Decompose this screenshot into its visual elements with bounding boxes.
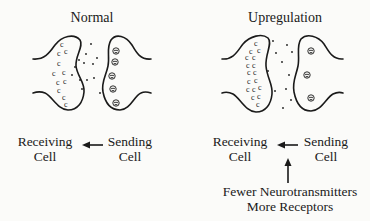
- label-line: Cell: [10, 149, 80, 164]
- label-line: Receiving: [10, 134, 80, 149]
- normal-neurotransmitter-dots: [71, 43, 101, 94]
- label-line: Cell: [205, 149, 275, 164]
- svg-text:c: c: [256, 100, 260, 109]
- upregulation-annotation: Fewer Neurotransmitters More Receptors: [210, 184, 370, 214]
- annotation-line: More Receptors: [210, 199, 370, 214]
- svg-text:c: c: [64, 100, 68, 109]
- upregulation-receptors: c cc cc cc cc cc ccc cc c: [245, 39, 262, 109]
- normal-sending-cell-label: Sending Cell: [100, 134, 160, 164]
- svg-text:c: c: [57, 59, 61, 68]
- panel-title-upregulation: Upregulation: [240, 10, 330, 25]
- upregulation-sending-cell-outline: [293, 36, 343, 111]
- svg-text:c: c: [251, 93, 255, 102]
- svg-text:c: c: [57, 86, 61, 95]
- annotation-line: Fewer Neurotransmitters: [210, 184, 370, 199]
- label-line: Sending: [100, 134, 160, 149]
- normal-vesicles: [109, 48, 119, 106]
- svg-text:c: c: [64, 47, 68, 56]
- svg-text:c: c: [258, 83, 262, 92]
- svg-text:c: c: [57, 49, 61, 58]
- svg-text:c: c: [257, 46, 261, 55]
- upregulation-sending-cell-label: Sending Cell: [296, 134, 356, 164]
- label-line: Cell: [100, 149, 160, 164]
- up-arrow-icon: [285, 158, 292, 183]
- normal-receptors: c cc c c cc c c c c: [52, 40, 68, 109]
- svg-text:c: c: [247, 68, 251, 77]
- svg-text:c: c: [246, 85, 250, 94]
- normal-receiving-cell-outline: [33, 36, 84, 110]
- normal-sending-cell-outline: [103, 36, 151, 110]
- svg-text:c: c: [62, 68, 66, 77]
- panel-title-normal: Normal: [60, 10, 124, 25]
- normal-receiving-cell-label: Receiving Cell: [10, 134, 80, 164]
- svg-text:c: c: [52, 69, 56, 78]
- left-arrow-icon: [277, 142, 298, 149]
- upregulation-vesicles: [304, 48, 314, 101]
- upregulation-receiving-cell-label: Receiving Cell: [205, 134, 275, 164]
- label-line: Cell: [296, 149, 356, 164]
- label-line: Sending: [296, 134, 356, 149]
- label-line: Receiving: [205, 134, 275, 149]
- svg-text:c: c: [63, 77, 67, 86]
